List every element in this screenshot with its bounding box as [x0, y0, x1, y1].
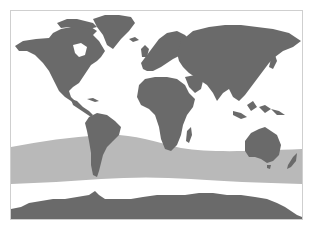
indonesia: [233, 101, 285, 119]
iceland: [129, 37, 139, 42]
madagascar: [186, 127, 192, 143]
central-america: [71, 99, 93, 117]
antarctica: [11, 191, 302, 219]
world-map: [10, 10, 303, 220]
caribbean: [87, 98, 99, 102]
north-america: [15, 26, 105, 107]
map-svg: [11, 11, 302, 219]
